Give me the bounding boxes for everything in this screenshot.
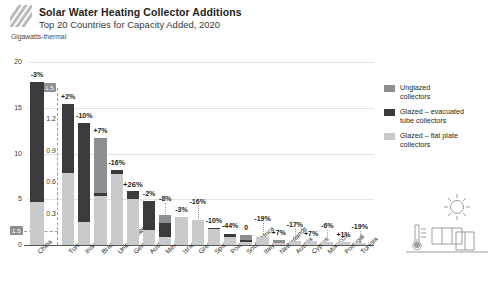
bar-change-label: -19% [343, 223, 377, 230]
solar-thermal-collector-illustration [404, 192, 490, 258]
bar-change-label: 0 [229, 224, 263, 231]
y-axis-tick-main: 10 [2, 150, 22, 157]
zoom-source-tag: 1.5 [10, 226, 23, 235]
zoom-inset-tag: 1.5 [43, 83, 56, 92]
y-axis-tick-main: 15 [2, 104, 22, 111]
bar-change-label: +7% [83, 127, 117, 134]
bar-segment-evac [240, 240, 252, 242]
sun-icon [444, 194, 470, 220]
bar-change-label: +2% [51, 93, 85, 100]
bar-segment-flat [78, 222, 90, 245]
bar-segment-evac [78, 123, 90, 222]
bar-change-label: -16% [100, 159, 134, 166]
bar-segment-evac [111, 170, 123, 174]
legend-item[interactable]: Glazed – evacuatedtube collectors [384, 108, 488, 125]
collector-panel-icon [432, 228, 474, 250]
legend-item[interactable]: Unglazedcollectors [384, 84, 488, 101]
chart-legend: UnglazedcollectorsGlazed – evacuatedtube… [384, 84, 488, 157]
bar-change-label: -17% [278, 221, 312, 228]
legend-label: Glazed – evacuatedtube collectors [400, 108, 464, 125]
bar-segment-ung [273, 240, 285, 243]
bar-china[interactable] [30, 82, 44, 245]
y-axis-tick-main: 20 [2, 58, 22, 65]
bar-change-label: +26% [116, 180, 150, 189]
bar-germany[interactable] [127, 191, 139, 245]
bar-india[interactable] [78, 123, 90, 245]
legend-swatch [384, 109, 395, 116]
bar-change-label: -10% [67, 112, 101, 119]
bar-spain[interactable] [208, 228, 220, 245]
bar-segment-evac [94, 193, 106, 196]
bar-change-label: -3% [164, 206, 198, 213]
bar-change-label: -16% [181, 198, 215, 205]
bar-turkey[interactable] [62, 104, 74, 245]
legend-label: Unglazedcollectors [400, 84, 430, 101]
bar-segment-evac [30, 82, 44, 202]
legend-label: Glazed – flat platecollectors [400, 132, 458, 149]
bar-change-label: -19% [245, 215, 279, 222]
legend-swatch [384, 133, 395, 140]
bar-segment-flat [62, 173, 74, 245]
bar-change-label: -8% [148, 195, 182, 202]
bar-segment-ung [240, 235, 252, 240]
bar-segment-flat [175, 217, 187, 245]
bar-change-label: -3% [19, 71, 55, 78]
thermometer-icon [413, 225, 426, 250]
y-axis-tick-main: 5 [2, 195, 22, 202]
bar-segment-flat [30, 202, 44, 245]
legend-item[interactable]: Glazed – flat platecollectors [384, 132, 488, 149]
legend-swatch [384, 85, 395, 92]
bar-segment-flat [127, 199, 139, 245]
bar-segment-evac [224, 234, 236, 237]
gridline-main [28, 62, 374, 63]
bar-change-label: +7% [262, 229, 296, 236]
bar-segment-evac [143, 201, 155, 230]
bar-mexico[interactable] [159, 215, 171, 245]
bar-change-label: -6% [310, 222, 344, 229]
bar-segment-flat [94, 196, 106, 245]
label-leader-line [360, 231, 361, 242]
bar-israel[interactable] [175, 217, 187, 245]
bar-segment-flat [208, 229, 220, 245]
bar-segment-evac [159, 223, 171, 237]
bar-brazil[interactable] [94, 138, 106, 245]
bar-australia[interactable] [143, 201, 155, 245]
bar-segment-ung [159, 215, 171, 223]
y-axis-tick-main: 0 [2, 241, 22, 248]
